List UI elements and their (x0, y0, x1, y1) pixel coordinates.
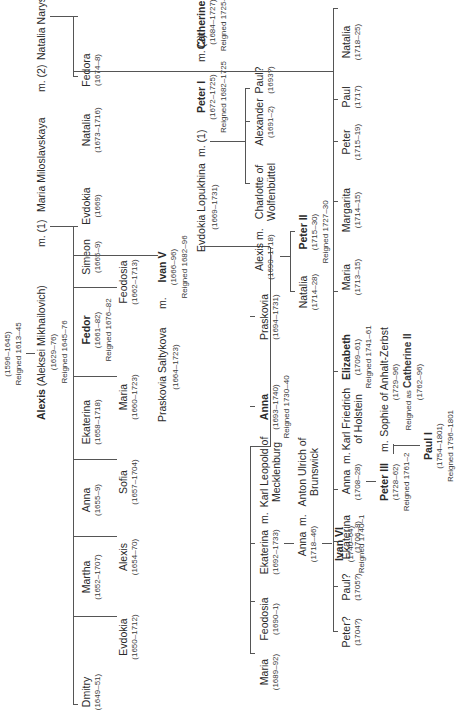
connector (73, 227, 74, 705)
child-paul-1717: Paul (1717) (340, 85, 362, 108)
connector (333, 541, 338, 542)
node-catherine-i: Catherine I (1684–1727) Reigned 1725–7 (195, 0, 228, 51)
node-peter-iii: Peter III (1728–62) Reigned 1761–2 (378, 453, 411, 512)
child-simeon: Simeon (1665–9) (80, 239, 102, 275)
connector (250, 653, 255, 654)
marriage-label: m. (340, 452, 352, 464)
connector (73, 704, 78, 705)
child-peter-1704: Peter? (1704?) (340, 617, 362, 648)
connector (333, 291, 338, 292)
family-tree-diagram: (1596–1645) Reigned 1613–45 Alexis (Alek… (0, 0, 469, 722)
child-dmitry: Dmitry (1649–51) (80, 674, 102, 710)
child-martha: Martha (1652–1707) (80, 554, 102, 599)
child-peter-1715: Peter (1715–19) (340, 124, 362, 160)
spouse-evdokia-lopukhina: Evdokia Lopukhina (195, 163, 207, 252)
spouse-anton-ulrich: Anton Ulrich of Brunswick (296, 438, 320, 507)
node-ivan-v: Ivan V (1666–96) Reigned 1682–96 (156, 235, 189, 298)
marriage-1-label: m. (1) (35, 220, 47, 247)
connector (250, 406, 255, 407)
spouse-karl-leopold: Karl Leopold of Mecklenburg (258, 437, 282, 508)
connector (333, 9, 334, 632)
node-elizabeth: Elizabeth (1709–61) Reigned 1741–61 (340, 325, 373, 388)
connector (163, 71, 333, 72)
child-maria: Maria (1660–1723) (117, 374, 139, 419)
child-ekaterina-1692: Ekaterina (1692–1733) (258, 529, 280, 574)
connector (322, 543, 332, 544)
child-ekaterina: Ekaterina (1658–1718) (80, 399, 102, 444)
connector (366, 481, 376, 482)
connector (73, 459, 117, 460)
child-fedora: Fedora (1674–8) (80, 53, 102, 86)
marriage-label: m. (253, 228, 265, 240)
child-alexis-1690: Alexis (1690–1718) (253, 234, 275, 279)
node-peter-ii: Peter II (1715–30) Reigned 1727–30 (297, 200, 330, 263)
spouse-praskovia-saltykova: Praskovia Saltykova (156, 327, 168, 422)
connector (250, 601, 255, 602)
connector (290, 232, 291, 292)
child-natalia: Natalia (1673–1716) (80, 107, 102, 152)
child-maria-1689: Maria (1689–92) (258, 654, 280, 690)
connector (284, 543, 294, 544)
connector (280, 256, 290, 257)
child-paul-1705: Paul? (1705?) (340, 573, 362, 601)
child-maria-1713: Maria (1713–15) (340, 259, 362, 295)
marriage-label: m. (258, 512, 270, 524)
connector (50, 16, 73, 17)
connector (26, 353, 35, 354)
child-natalia-1718: Natalia (1718–25) (340, 24, 362, 60)
connector (250, 447, 251, 654)
node-paul-i: Paul I (1754–1801) Reigned 1796–1801 (422, 410, 455, 482)
connector (73, 226, 78, 227)
connector (73, 536, 117, 537)
connector (73, 376, 117, 377)
node-alexis: Alexis (Aleksei Mikhailovich) (35, 285, 47, 420)
connector (333, 371, 338, 372)
child-feodosia: Feodosia (1662–1713) (117, 259, 139, 304)
marriage-1-label: m. (1) (195, 130, 207, 157)
connector (290, 291, 295, 292)
connector (333, 201, 338, 202)
connector (333, 99, 338, 100)
child-evdokia: Evdokia (1650–1712) (117, 614, 139, 659)
connector (245, 88, 250, 89)
child-ekaterina-1706: Ekaterina (1706–8) (340, 515, 362, 559)
connector (73, 76, 78, 77)
lopukhina-dates: (1669–1731) (209, 184, 219, 229)
connector (333, 631, 338, 632)
praskovia-dates: (1664–1723) (170, 344, 180, 389)
marriage-2-label: m. (2) (35, 65, 47, 92)
connector (393, 445, 420, 446)
connector (333, 489, 338, 490)
connector (210, 141, 245, 142)
child-praskovia-1694: Praskovia (1694–1731) (258, 294, 280, 340)
child-feodosia-1690: Feodosia (1690–1) (258, 597, 280, 640)
connector (290, 231, 295, 232)
connector (333, 141, 338, 142)
child-alexander: Alexander (1691–2) (253, 98, 275, 145)
child-margarita: Margarita (1714–15) (340, 188, 362, 232)
child-natalia-1714: Natalia (1714–28) (297, 274, 319, 310)
spouse-maria-miloslavskaya: Maria Miloslavskaya (35, 117, 47, 212)
child-sofia: Sofia (1657–1704) (117, 459, 139, 504)
connector (250, 543, 255, 544)
alexis-dates: (1629–76) Reigned 1645–76 (48, 320, 69, 383)
marriage-label: m. (378, 440, 390, 452)
spouse-natalia-naryshkina: Natalia Naryshkina (35, 0, 47, 60)
connector (73, 16, 78, 17)
child-anna: Anna (1655–9) (80, 484, 102, 516)
child-anna-1708: Anna (1708–28) (340, 464, 362, 500)
connector (73, 616, 117, 617)
connector (73, 17, 74, 77)
child-anna-1693: Anna (1693–1740) Reigned 1730–40 (258, 375, 291, 438)
spouse-karl-friedrich: Karl Friedrich of Holstein (340, 388, 364, 450)
connector (73, 71, 163, 72)
node-anna-leopoldovna: Anna (1718–46) (296, 526, 318, 562)
node-michael: (1596–1645) Reigned 1613–45 (2, 322, 23, 385)
connector (73, 255, 158, 256)
spouse-charlotte: Charlotte of Wolfenbüttel (253, 163, 277, 221)
child-evdokia-1669: Evdokia (1669) (80, 187, 102, 224)
connector (245, 89, 246, 184)
node-sophie-catherine-ii: Sophie of Anhalt-Zerbst (1729–96) Reigne… (378, 327, 424, 437)
connector (50, 226, 73, 227)
marriage-label: m. (296, 514, 308, 526)
